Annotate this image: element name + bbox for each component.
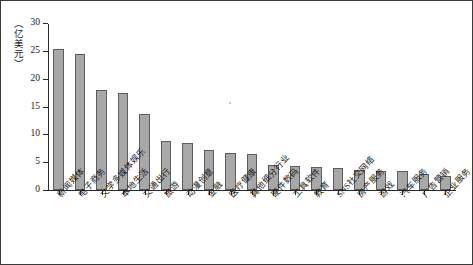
y-axis-line: [48, 24, 49, 191]
y-tick-label: 20: [31, 73, 41, 84]
y-tick-label: 0: [35, 184, 40, 195]
y-tick-0: 0: [43, 190, 48, 191]
x-axis-category-labels: 新闻媒体电子商务文学多媒体娱乐本地生活交通出行旅游动漫创意金融医疗健康其他细分行…: [48, 193, 456, 265]
y-tick-label: 15: [31, 101, 41, 112]
y-tick-20: 20: [43, 79, 48, 80]
y-tick-label: 5: [35, 156, 40, 167]
y-axis-unit-label: （亿美元）: [9, 19, 23, 69]
scan-speck: [229, 102, 231, 104]
y-tick-label: 10: [31, 128, 41, 139]
y-tick-15: 15: [43, 107, 48, 108]
y-tick-5: 5: [43, 162, 48, 163]
y-tick-25: 25: [43, 51, 48, 52]
y-tick-label: 30: [31, 17, 41, 28]
y-tick-label: 25: [31, 45, 41, 56]
y-tick-10: 10: [43, 134, 48, 135]
bar: [53, 49, 64, 190]
y-tick-30: 30: [43, 23, 48, 24]
bar-chart-figure: （亿美元） 051015202530 新闻媒体电子商务文学多媒体娱乐本地生活交通…: [0, 0, 473, 265]
